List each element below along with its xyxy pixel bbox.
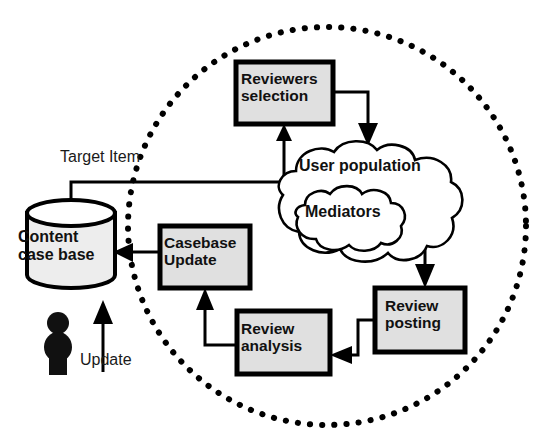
box-casebase-update xyxy=(160,226,250,288)
edge-selection-to-users xyxy=(333,92,378,146)
edge-casebase-to-content xyxy=(113,243,160,262)
box-reviewers-selection xyxy=(236,62,333,124)
diagram-graphics xyxy=(0,0,542,439)
edge-target-item xyxy=(71,124,292,200)
box-review-posting xyxy=(375,288,465,352)
edge-update xyxy=(93,300,113,372)
cylinder-content-case-base xyxy=(27,200,115,288)
edge-posting-to-analysis xyxy=(330,320,375,364)
box-review-analysis xyxy=(237,311,330,374)
person-icon xyxy=(44,312,72,375)
diagram-canvas: Reviewers selection Casebase Update Revi… xyxy=(0,0,542,439)
edge-analysis-to-casebase xyxy=(196,288,237,345)
